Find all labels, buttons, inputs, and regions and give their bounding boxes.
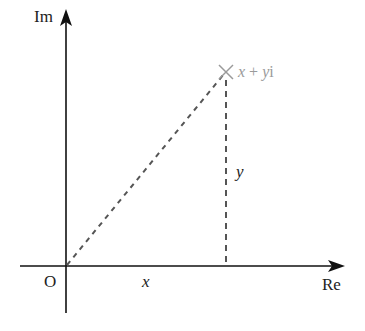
imaginary-axis-label: Im bbox=[34, 8, 53, 25]
point-label-i: i bbox=[269, 63, 273, 80]
imaginary-part-label: y bbox=[236, 163, 244, 180]
complex-plane-diagram: Im Re O x + yi x y bbox=[0, 0, 365, 331]
origin-label: O bbox=[44, 273, 56, 290]
modulus-dashed-line bbox=[67, 74, 224, 265]
point-cross-marker-icon bbox=[219, 65, 233, 79]
real-part-label: x bbox=[142, 273, 150, 290]
point-label: x + yi bbox=[238, 64, 274, 80]
point-label-plus: + bbox=[245, 63, 262, 80]
real-axis-label: Re bbox=[322, 276, 341, 293]
